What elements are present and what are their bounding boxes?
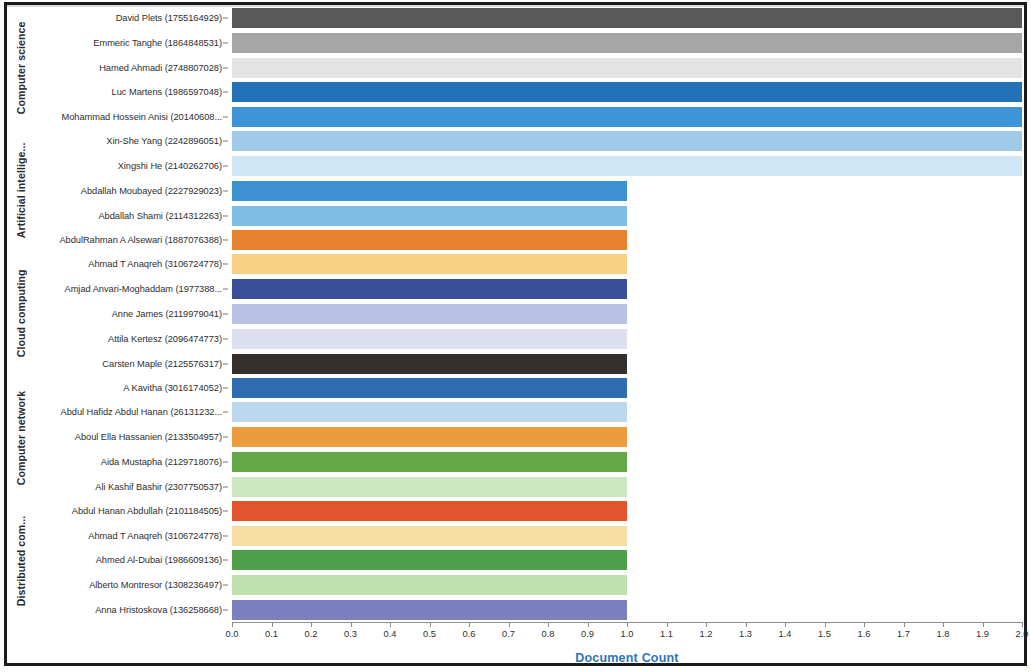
tick-mark [223,585,228,586]
x-tick-label: 0.1 [265,629,278,639]
bar[interactable] [232,378,627,398]
author-tick-label: Carsten Maple (2125576317) [102,359,222,369]
bar[interactable] [232,501,627,521]
bar[interactable] [232,230,627,250]
x-tick-label: 2.0 [1016,629,1029,639]
bar[interactable] [232,575,627,595]
x-tick-mark [469,622,470,627]
bar[interactable] [232,107,1022,127]
x-tick-mark [1022,622,1023,627]
author-tick-label: Abdul Hafidz Abdul Hanan (26131232... [61,407,222,417]
x-tick-label: 1.1 [660,629,673,639]
x-tick-mark [627,622,628,627]
x-tick-label: 1.8 [937,629,950,639]
x-tick-mark [232,622,233,627]
author-tick-label: David Plets (1755164929) [116,13,222,23]
bar[interactable] [232,354,627,374]
tick-mark [223,240,228,241]
bar[interactable] [232,58,1022,78]
bar[interactable] [232,206,627,226]
x-tick-label: 0.7 [502,629,515,639]
x-tick-label: 0.4 [384,629,397,639]
author-tick-label: Aida Mustapha (2129718076) [101,457,222,467]
bar[interactable] [232,477,627,497]
author-tick-label: Amjad Anvari-Moghaddam (1977388... [65,284,222,294]
x-tick-label: 0.2 [305,629,318,639]
bar[interactable] [232,33,1022,53]
tick-mark [223,42,228,43]
tick-mark [223,289,228,290]
tick-mark [223,412,228,413]
author-tick-label: A Kavitha (3016174052) [123,383,222,393]
bar[interactable] [232,600,627,620]
author-tick-label: Anne James (2119979041) [112,309,222,319]
x-tick-label: 0.6 [463,629,476,639]
x-tick-mark [272,622,273,627]
tick-mark [223,67,228,68]
x-tick-mark [983,622,984,627]
bar[interactable] [232,254,627,274]
bar[interactable] [232,427,627,447]
x-tick-label: 0.3 [344,629,357,639]
x-tick-label: 0.5 [423,629,436,639]
bar[interactable] [232,550,627,570]
author-tick-label: Alberto Montresor (1308236497) [89,580,222,590]
author-tick-label: AbdulRahman A Alsewari (1887076388) [59,235,222,245]
tick-mark [223,610,228,611]
x-tick-label: 1.0 [621,629,634,639]
author-tick-label: Ahmed Al-Dubai (1986609136) [96,555,222,565]
x-tick-mark [509,622,510,627]
tick-mark [223,117,228,118]
tick-mark [223,141,228,142]
author-tick-label: Hamed Ahmadi (2748807028) [99,63,222,73]
x-axis-title: Document Count [575,651,678,665]
bar[interactable] [232,156,1022,176]
author-tick-label: Xingshi He (2140262706) [118,161,222,171]
author-tick-label: Abdallah Moubayed (2227929023) [81,186,222,196]
x-tick-label: 1.9 [976,629,989,639]
author-tick-label: Abdul Hanan Abdullah (2101184505) [72,506,222,516]
x-tick-label: 1.7 [897,629,910,639]
bar[interactable] [232,329,627,349]
x-tick-mark [667,622,668,627]
tick-mark [223,166,228,167]
tick-mark [223,462,228,463]
x-tick-mark [825,622,826,627]
bar[interactable] [232,8,1022,28]
tick-mark [223,264,228,265]
tick-mark [223,190,228,191]
bar[interactable] [232,304,627,324]
bar[interactable] [232,279,627,299]
tick-mark [223,535,228,536]
x-tick-mark [351,622,352,627]
x-tick-mark [864,622,865,627]
x-tick-mark [904,622,905,627]
tick-mark [223,510,228,511]
x-tick-mark [706,622,707,627]
x-tick-label: 0.0 [226,629,239,639]
tick-mark [223,215,228,216]
tick-mark [223,92,228,93]
author-tick-label: Emmeric Tanghe (1864848531) [93,38,222,48]
author-tick-label: Mohammad Hossein Anisi (20140608... [61,112,222,122]
tick-mark [223,387,228,388]
bar[interactable] [232,452,627,472]
tick-mark [223,18,228,19]
tick-mark [223,560,228,561]
x-tick-label: 0.8 [542,629,555,639]
x-tick-mark [943,622,944,627]
author-tick-label: Luc Martens (1986597048) [112,87,222,97]
bar[interactable] [232,82,1022,102]
bar[interactable] [232,181,627,201]
x-tick-label: 1.2 [700,629,713,639]
bar[interactable] [232,402,627,422]
author-tick-label: Ali Kashif Bashir (2307750537) [95,482,222,492]
tick-mark [223,338,228,339]
x-tick-mark [430,622,431,627]
x-tick-mark [390,622,391,627]
bar[interactable] [232,526,627,546]
author-tick-label: Xin-She Yang (2242896051) [106,136,222,146]
bar[interactable] [232,131,1022,151]
x-tick-mark [746,622,747,627]
x-tick-mark [785,622,786,627]
